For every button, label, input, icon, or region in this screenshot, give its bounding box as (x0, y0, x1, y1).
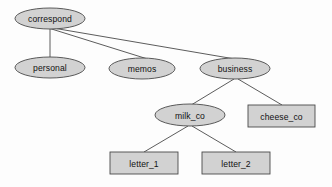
node-business[interactable]: business (200, 58, 270, 79)
node-label-business: business (218, 64, 253, 74)
node-label-memos: memos (128, 64, 157, 74)
edge-correspond-business (50, 28, 232, 59)
edge-milk_co-letter_1 (144, 126, 188, 152)
node-memos[interactable]: memos (109, 58, 175, 79)
node-label-personal: personal (33, 63, 67, 73)
node-label-milk_co: milk_co (175, 111, 205, 121)
node-label-correspond: correspond (28, 14, 72, 24)
edge-business-cheese_co (238, 79, 282, 105)
diagram-canvas: correspond personal memos business milk_… (0, 0, 332, 187)
tree-diagram: correspond personal memos business milk_… (0, 0, 332, 187)
node-cheese_co[interactable]: cheese_co (248, 105, 315, 127)
node-letter_2[interactable]: letter_2 (202, 152, 270, 174)
node-personal[interactable]: personal (15, 57, 85, 78)
node-letter_1[interactable]: letter_1 (110, 152, 178, 174)
node-correspond[interactable]: correspond (15, 8, 85, 29)
node-label-letter_1: letter_1 (129, 159, 159, 169)
edge-milk_co-letter_2 (192, 126, 236, 152)
edge-group (50, 28, 282, 153)
edge-correspond-memos (50, 29, 146, 59)
node-label-letter_2: letter_2 (221, 159, 251, 169)
node-milk_co[interactable]: milk_co (155, 104, 225, 126)
node-label-cheese_co: cheese_co (260, 112, 303, 122)
edge-business-milk_co (192, 79, 234, 105)
